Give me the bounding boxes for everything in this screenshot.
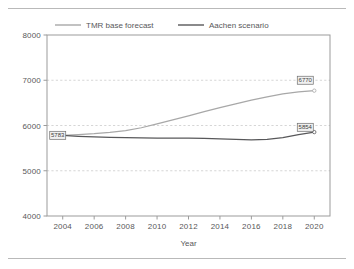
x-axis-title: Year [180,239,197,248]
y-tick-label-4000: 4000 [22,212,41,221]
tmr-end-value-label: 6770 [299,77,313,83]
y-tick-label-8000: 8000 [22,31,41,40]
x-tick-label-2004: 2004 [53,222,72,231]
x-tick-label-2006: 2006 [85,222,104,231]
legend-label-0: TMR base forecast [86,21,154,30]
y-tick-label-7000: 7000 [22,76,41,85]
x-tick-label-2012: 2012 [179,222,198,231]
chart-figure: 200420062008201020122014201620182020 400… [0,0,354,269]
data-markers-group [61,89,316,137]
y-tick-label-5000: 5000 [22,167,41,176]
x-axis-title-label: Year [180,239,197,248]
x-tick-label-2008: 2008 [116,222,135,231]
series-line-tmr-base-forecast [63,91,315,136]
legend-label-1: Aachen scenario [209,21,269,30]
x-tick-label-2010: 2010 [148,222,167,231]
start-value-label: 5783 [51,132,65,138]
x-tick-label-2020: 2020 [305,222,324,231]
x-tick-label-2018: 2018 [274,222,293,231]
line-chart: 200420062008201020122014201620182020 400… [0,0,354,269]
chart-legend: TMR base forecastAachen scenario [55,21,269,30]
series-marker [313,89,316,92]
aachen-end-value-label: 5854 [299,124,313,130]
y-tick-label-6000: 6000 [22,122,41,131]
x-axis-ticks: 200420062008201020122014201620182020 [53,216,324,231]
data-series-group [63,91,315,140]
data-labels-group: 578367705854 [50,76,314,139]
x-tick-label-2016: 2016 [242,222,261,231]
x-tick-label-2014: 2014 [211,222,230,231]
y-axis-ticks: 40005000600070008000 [22,31,47,221]
